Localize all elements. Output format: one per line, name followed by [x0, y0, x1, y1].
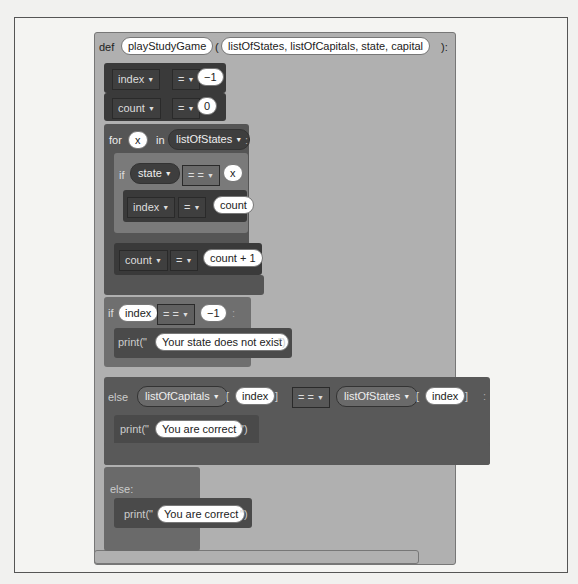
compare-op-dropdown[interactable]: = =▼	[182, 165, 220, 186]
value-field[interactable]: count	[213, 196, 254, 214]
chevron-down-icon: ▼	[155, 257, 162, 264]
compare-op-dropdown[interactable]: = =▼	[157, 304, 195, 325]
for-block-footer	[104, 275, 264, 295]
in-keyword: in	[156, 133, 165, 147]
for-colon: :	[245, 133, 248, 147]
print-suffix: ")	[240, 507, 248, 521]
params-field[interactable]: listOfStates, listOfCapitals, state, cap…	[221, 37, 430, 55]
chevron-down-icon: ▼	[148, 105, 155, 112]
if-keyword: if	[119, 168, 125, 182]
if-colon: :	[232, 306, 235, 320]
print-text-field[interactable]: You are correct	[155, 420, 243, 438]
print-prefix: print("	[120, 422, 149, 436]
chevron-down-icon: ▼	[187, 76, 194, 83]
chevron-down-icon: ▼	[187, 105, 194, 112]
print-text-field[interactable]: Your state does not exist	[155, 333, 289, 351]
open-paren: (	[215, 40, 219, 54]
chevron-down-icon: ▼	[147, 76, 154, 83]
value-field[interactable]: count + 1	[203, 249, 263, 267]
else-keyword: else:	[110, 482, 133, 496]
print-suffix: ")	[278, 335, 286, 349]
chevron-down-icon: ▼	[185, 257, 192, 264]
elif-colon: :	[483, 389, 486, 403]
else-keyword: else	[108, 390, 128, 404]
chevron-down-icon: ▼	[165, 170, 172, 177]
chevron-down-icon: ▼	[193, 204, 200, 211]
chevron-down-icon: ▼	[182, 311, 189, 318]
print-suffix: ")	[240, 422, 248, 436]
elif-block-footer	[104, 443, 490, 465]
left-index-field[interactable]: index	[235, 387, 275, 405]
def-keyword: def	[99, 40, 114, 54]
left-operand-field[interactable]: index	[118, 304, 158, 322]
state-dropdown[interactable]: state▼	[130, 163, 180, 184]
function-name-field[interactable]: playStudyGame	[121, 37, 213, 55]
chevron-down-icon: ▼	[235, 136, 242, 143]
def-block-footer	[94, 550, 419, 564]
right-operand-field[interactable]: x	[223, 164, 243, 182]
op-dropdown[interactable]: =▼	[170, 250, 198, 271]
print-text-field[interactable]: You are correct	[157, 505, 245, 523]
loop-var-field[interactable]: x	[128, 131, 148, 149]
def-close: ):	[441, 40, 448, 54]
left-bracket: [	[226, 389, 229, 403]
chevron-down-icon: ▼	[403, 393, 410, 400]
right-operand-field[interactable]: −1	[200, 304, 227, 322]
right-index-field[interactable]: index	[425, 387, 465, 405]
value-field[interactable]: 0	[197, 97, 217, 115]
left-bracket: [	[416, 389, 419, 403]
var-dropdown-count[interactable]: count▼	[119, 250, 168, 271]
chevron-down-icon: ▼	[317, 394, 324, 401]
var-dropdown-count[interactable]: count▼	[112, 98, 161, 119]
chevron-down-icon: ▼	[207, 172, 214, 179]
iterable-dropdown[interactable]: listOfStates▼	[168, 129, 250, 150]
if-keyword: if	[108, 306, 114, 320]
value-field[interactable]: −1	[197, 68, 224, 86]
right-bracket: ]	[275, 389, 278, 403]
chevron-down-icon: ▼	[213, 393, 220, 400]
def-block-spine	[95, 58, 103, 550]
print-prefix: print("	[124, 507, 153, 521]
op-dropdown[interactable]: =▼	[172, 98, 200, 119]
op-dropdown[interactable]: =▼	[178, 197, 206, 218]
op-dropdown[interactable]: =▼	[172, 69, 200, 90]
right-bracket: ]	[465, 389, 468, 403]
print-prefix: print("	[118, 335, 147, 349]
for-keyword: for	[109, 133, 122, 147]
capitals-list-dropdown[interactable]: listOfCapitals▼	[137, 386, 228, 407]
compare-op-dropdown[interactable]: = =▼	[292, 387, 330, 408]
var-dropdown-index[interactable]: index▼	[112, 69, 160, 90]
states-list-dropdown[interactable]: listOfStates▼	[336, 386, 418, 407]
chevron-down-icon: ▼	[162, 204, 169, 211]
var-dropdown-index[interactable]: index▼	[127, 197, 175, 218]
